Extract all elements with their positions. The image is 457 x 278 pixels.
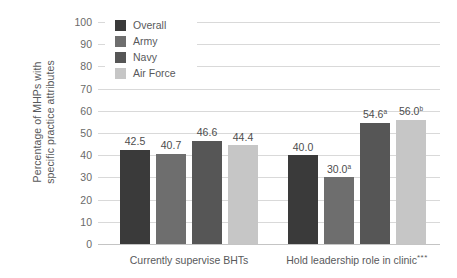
legend-swatch-icon xyxy=(115,52,126,63)
legend-label: Army xyxy=(133,36,158,47)
category-label-1: Hold leadership role in clinic*** xyxy=(286,255,428,266)
legend-label: Overall xyxy=(133,20,166,31)
bar-chart: Percentage of MHPs with specific practic… xyxy=(0,0,457,278)
bar-value-label: 42.5 xyxy=(125,136,145,147)
bar-air-force-1: 56.0b xyxy=(396,120,426,244)
legend-item-army[interactable]: Army xyxy=(115,36,187,47)
legend-item-navy[interactable]: Navy xyxy=(115,52,187,63)
legend-item-air-force[interactable]: Air Force xyxy=(115,68,187,79)
y-tick-label-10: 10 xyxy=(80,217,92,228)
category-label-0: Currently supervise BHTs xyxy=(130,255,248,266)
bar-value-label: 30.0a xyxy=(327,164,351,175)
bar-value-label: 56.0b xyxy=(399,106,423,117)
legend-item-overall[interactable]: Overall xyxy=(115,20,187,31)
y-axis-title-line-1: Percentage of MHPs with xyxy=(31,62,44,183)
y-tick-label-70: 70 xyxy=(80,83,92,94)
gridline-60: 60 xyxy=(98,111,440,112)
y-tick-label-40: 40 xyxy=(80,150,92,161)
y-tick-label-80: 80 xyxy=(80,61,92,72)
y-tick-label-60: 60 xyxy=(80,106,92,117)
bar-value-label: 40.0 xyxy=(293,142,313,153)
y-tick-label-30: 30 xyxy=(80,172,92,183)
y-tick-label-50: 50 xyxy=(80,128,92,139)
bar-value-label: 54.6a xyxy=(363,109,387,120)
gridline-0: 0 xyxy=(98,244,440,245)
legend: OverallArmyNavyAir Force xyxy=(105,11,197,88)
y-tick-label-0: 0 xyxy=(86,239,92,250)
legend-swatch-icon xyxy=(115,68,126,79)
bar-overall-1: 40.0 xyxy=(288,155,318,244)
y-tick-label-90: 90 xyxy=(80,39,92,50)
bar-value-label: 40.7 xyxy=(161,140,181,151)
bar-overall-0: 42.5 xyxy=(120,150,150,244)
legend-swatch-icon xyxy=(115,20,126,31)
bar-army-0: 40.7 xyxy=(156,154,186,244)
bar-navy-1: 54.6a xyxy=(360,123,390,244)
legend-swatch-icon xyxy=(115,36,126,47)
y-axis-title-line-2: specific practice attributes xyxy=(44,60,57,184)
bar-value-label: 46.6 xyxy=(197,127,217,138)
bar-value-label: 44.4 xyxy=(233,132,253,143)
y-tick-label-100: 100 xyxy=(74,17,92,28)
y-tick-label-20: 20 xyxy=(80,194,92,205)
y-axis-title: Percentage of MHPs with specific practic… xyxy=(28,2,60,242)
legend-label: Air Force xyxy=(133,68,176,79)
bar-air-force-0: 44.4 xyxy=(228,145,258,244)
bar-army-1: 30.0a xyxy=(324,177,354,244)
bar-navy-0: 46.6 xyxy=(192,141,222,244)
gridline-70: 70 xyxy=(98,89,440,90)
legend-label: Navy xyxy=(133,52,157,63)
